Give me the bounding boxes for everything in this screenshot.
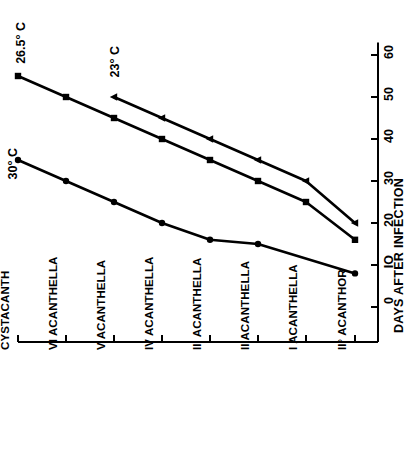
value-axis-title: DAYS AFTER INFECTION — [392, 178, 406, 333]
data-point-circle — [111, 199, 117, 205]
series-line — [18, 160, 355, 273]
series-line — [18, 76, 355, 240]
data-point-square — [255, 178, 261, 184]
data-point-square — [303, 199, 309, 205]
series-annotation-1: 23° C — [108, 46, 122, 77]
category-label-3: IV ACANTHELLA — [143, 256, 155, 350]
category-label-6: I ACANTHELLA — [287, 264, 299, 350]
series-line — [114, 97, 355, 223]
data-point-square — [207, 157, 213, 163]
value-tick-label-60: 60 — [382, 45, 396, 59]
chart-plot-area — [0, 0, 417, 450]
category-label-4: III ACANTHELLA — [191, 258, 203, 350]
data-point-circle — [255, 241, 261, 247]
data-point-square — [111, 115, 117, 121]
series-annotation-0: 26.5° C — [14, 22, 28, 64]
value-tick-label-50: 50 — [382, 87, 396, 101]
data-point-square — [352, 237, 358, 243]
data-point-circle — [352, 270, 358, 276]
data-point-circle — [159, 220, 165, 226]
value-tick-label-40: 40 — [382, 129, 396, 143]
data-point-circle — [63, 178, 69, 184]
data-point-circle — [207, 237, 213, 243]
data-point-square — [15, 73, 21, 79]
data-point-square — [159, 136, 165, 142]
category-label-1: VI ACANTHELLA — [47, 256, 59, 350]
series-annotation-2: 30° C — [6, 148, 20, 179]
chart-figure: CYSTACANTHVI ACANTHELLAV ACANTHELLAIV AC… — [0, 0, 417, 450]
category-label-7: II° ACANTHOR — [336, 269, 348, 350]
category-label-2: V ACANTHELLA — [95, 260, 107, 350]
data-point-triangle — [110, 93, 117, 100]
category-label-0: CYSTACANTH — [0, 271, 11, 350]
data-point-square — [63, 94, 69, 100]
category-label-5: II ACANTHELLA — [239, 261, 251, 350]
